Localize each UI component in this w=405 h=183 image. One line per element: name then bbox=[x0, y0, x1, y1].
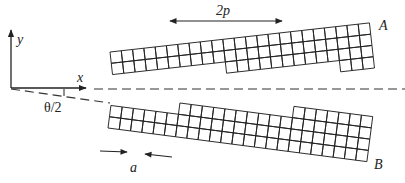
lattice-cell bbox=[325, 122, 338, 135]
lattice-cell bbox=[347, 125, 360, 138]
lattice-cell bbox=[344, 147, 357, 160]
lattice-cell bbox=[315, 109, 328, 122]
lattice-cell bbox=[221, 131, 234, 144]
lattice-cell bbox=[223, 109, 236, 122]
lattice-cell bbox=[132, 108, 145, 121]
lattice-cell bbox=[303, 41, 316, 54]
lattice-cell bbox=[119, 118, 132, 131]
lattice-cell bbox=[256, 124, 269, 137]
lattice-cell bbox=[109, 105, 122, 118]
spacing-label: a bbox=[130, 160, 137, 175]
lattice-cell bbox=[201, 106, 214, 119]
lattice-cell bbox=[266, 137, 279, 150]
lattice-cell bbox=[278, 127, 291, 140]
lattice-cell bbox=[243, 134, 256, 147]
lattice-cell bbox=[269, 115, 282, 128]
lattice-cell bbox=[346, 136, 359, 149]
lattice-cell bbox=[213, 51, 226, 64]
lattice-cell bbox=[188, 116, 201, 129]
lattice-cell bbox=[257, 34, 270, 47]
lattice-cell bbox=[304, 108, 317, 121]
lattice-cell bbox=[338, 48, 351, 61]
lattice-cell bbox=[277, 139, 290, 152]
lattice-cell bbox=[349, 47, 362, 60]
lattice-cell bbox=[200, 117, 213, 130]
coordinate-axes: y x bbox=[11, 30, 86, 88]
lattice-cell bbox=[324, 27, 337, 40]
lattice-cell bbox=[153, 123, 166, 136]
lattice-cell bbox=[155, 46, 168, 59]
lattice-cell bbox=[187, 127, 200, 140]
lattice-cell bbox=[254, 136, 267, 149]
lattice-cell bbox=[178, 103, 191, 116]
lattice-cell bbox=[326, 111, 339, 124]
lattice-cell bbox=[257, 113, 270, 126]
lattice-cell bbox=[223, 38, 236, 51]
lattice-cell bbox=[361, 45, 374, 58]
lattice-cell bbox=[316, 51, 329, 64]
lattice-cell bbox=[222, 120, 235, 133]
lattice-cell bbox=[176, 126, 189, 139]
lattice-cell bbox=[154, 111, 167, 124]
lattice-cell bbox=[349, 114, 362, 127]
angle-label: θ/2 bbox=[44, 100, 62, 115]
lattice-cell bbox=[201, 52, 214, 65]
lattice-cell bbox=[258, 46, 271, 59]
spacing-arrow-right bbox=[145, 154, 172, 157]
lattice-cell bbox=[235, 110, 248, 123]
lattice-cell bbox=[359, 126, 372, 139]
lattice-cell bbox=[268, 33, 281, 46]
lattice-cell bbox=[301, 130, 314, 143]
lattice-cell bbox=[313, 28, 326, 41]
lattice-cell bbox=[336, 25, 349, 38]
lattice-cell bbox=[337, 112, 350, 125]
lattice-cell bbox=[280, 116, 293, 129]
lattice-cell bbox=[133, 48, 146, 61]
x-axis-label: x bbox=[76, 70, 84, 85]
lattice-cell bbox=[121, 107, 134, 120]
lattice-cell bbox=[166, 44, 179, 57]
lattice-cell bbox=[209, 130, 222, 143]
period-label: 2p bbox=[216, 3, 230, 18]
lattice-cell bbox=[111, 62, 124, 75]
lattice-cell bbox=[189, 42, 202, 55]
lattice-cell bbox=[232, 133, 245, 146]
lattice-cell bbox=[144, 47, 157, 60]
lattice-cell bbox=[246, 112, 259, 125]
lattice-cell bbox=[292, 42, 305, 55]
lattice-cell bbox=[166, 113, 179, 126]
lattice-cell bbox=[143, 110, 156, 123]
lattice-cell bbox=[327, 49, 340, 62]
lattice-cell bbox=[267, 126, 280, 139]
lattice-cell bbox=[168, 56, 181, 69]
lattice-cell bbox=[108, 117, 121, 130]
crystal-b-label: B bbox=[374, 157, 383, 172]
lattice-cell bbox=[348, 35, 361, 48]
lattice-cell bbox=[212, 107, 225, 120]
lattice-cell bbox=[245, 36, 258, 49]
lattice-cell bbox=[356, 149, 369, 162]
crystal-a-label: A bbox=[378, 18, 388, 33]
lattice-cell bbox=[134, 59, 147, 72]
lattice-cell bbox=[288, 140, 301, 153]
lattice-cell bbox=[235, 48, 248, 61]
lattice-cell bbox=[164, 124, 177, 137]
lattice-cell bbox=[233, 122, 246, 135]
lattice-cell bbox=[178, 43, 191, 56]
lattice-cell bbox=[123, 61, 136, 74]
lattice-cell bbox=[360, 115, 373, 128]
lattice-cell bbox=[142, 121, 155, 134]
lattice-cell bbox=[362, 57, 375, 70]
lattice-cell bbox=[212, 39, 225, 52]
spacing-arrow-left bbox=[100, 151, 127, 152]
crystal-b-grid bbox=[108, 83, 373, 162]
lattice-cell bbox=[291, 118, 304, 131]
lattice-cell bbox=[121, 49, 134, 62]
lattice-cell bbox=[304, 52, 317, 65]
lattice-cell bbox=[290, 30, 303, 43]
lattice-cell bbox=[292, 106, 305, 119]
lattice-cell bbox=[293, 53, 306, 66]
lattice-cell bbox=[198, 128, 211, 141]
lattice-cell bbox=[225, 61, 238, 74]
lattice-cell bbox=[259, 57, 272, 70]
